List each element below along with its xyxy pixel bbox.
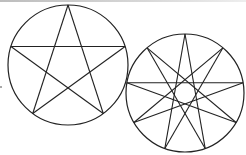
pentagram-edge bbox=[11, 46, 103, 113]
pentagram-in-circle bbox=[8, 5, 128, 125]
star-polygons-figure bbox=[0, 0, 246, 155]
nonagram-edge bbox=[134, 48, 223, 123]
nonagram-edge bbox=[127, 83, 236, 123]
nonagram-edge bbox=[147, 48, 236, 123]
pentagram-edge bbox=[68, 5, 103, 114]
nonagram-circle bbox=[126, 34, 244, 152]
pentagram-circle bbox=[8, 5, 128, 125]
nonagram-edge bbox=[134, 83, 243, 123]
pentagram-edge bbox=[33, 5, 68, 114]
nonagram-in-circle bbox=[126, 34, 244, 152]
pentagram-edge bbox=[33, 46, 125, 113]
